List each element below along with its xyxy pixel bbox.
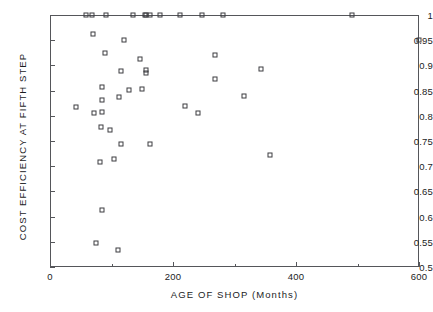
data-point-marker bbox=[182, 103, 187, 108]
data-point-marker bbox=[94, 241, 99, 246]
data-point-marker bbox=[99, 110, 104, 115]
data-point-marker bbox=[89, 13, 94, 18]
y-axis-tick-label: 0.65 bbox=[389, 186, 433, 197]
data-point-marker bbox=[103, 13, 108, 18]
y-axis-tick bbox=[50, 267, 55, 268]
y-axis-tick bbox=[50, 65, 55, 66]
x-axis-title: AGE OF SHOP (Months) bbox=[50, 289, 419, 300]
x-axis-tick-label: 600 bbox=[411, 271, 427, 282]
data-point-marker bbox=[74, 105, 79, 110]
data-point-marker bbox=[83, 13, 88, 18]
y-axis-tick-label: 0.7 bbox=[389, 161, 433, 172]
data-point-marker bbox=[108, 128, 113, 133]
y-axis-tick bbox=[50, 15, 55, 16]
data-point-marker bbox=[139, 86, 144, 91]
y-axis-tick-label: 0.95 bbox=[389, 35, 433, 46]
data-point-marker bbox=[119, 69, 124, 74]
data-point-marker bbox=[148, 13, 153, 18]
data-point-marker bbox=[148, 142, 153, 147]
data-point-marker bbox=[131, 13, 136, 18]
y-axis-tick bbox=[50, 40, 55, 41]
y-axis-tick-label: 0.8 bbox=[389, 110, 433, 121]
scatter-plot-figure: 0.50.550.60.650.70.750.80.850.90.951 020… bbox=[0, 0, 433, 312]
y-axis-tick bbox=[50, 166, 55, 167]
x-axis-minor-tick bbox=[235, 264, 236, 267]
data-point-marker bbox=[258, 67, 263, 72]
y-axis-tick-label: 1 bbox=[389, 10, 433, 21]
y-axis-tick bbox=[50, 242, 55, 243]
data-point-marker bbox=[100, 207, 105, 212]
x-axis-tick bbox=[50, 262, 51, 267]
data-point-marker bbox=[268, 153, 273, 158]
data-point-marker bbox=[137, 56, 142, 61]
data-point-marker bbox=[195, 111, 200, 116]
y-axis-tick bbox=[50, 217, 55, 218]
data-point-marker bbox=[349, 13, 354, 18]
data-point-marker bbox=[158, 13, 163, 18]
y-axis-tick bbox=[50, 141, 55, 142]
x-axis-tick-label: 0 bbox=[47, 271, 52, 282]
data-point-marker bbox=[92, 110, 97, 115]
y-axis-tick-label: 0.9 bbox=[389, 60, 433, 71]
data-point-marker bbox=[117, 95, 122, 100]
y-axis-tick-label: 0.55 bbox=[389, 236, 433, 247]
y-axis-tick-label: 0.75 bbox=[389, 136, 433, 147]
data-point-marker bbox=[220, 13, 225, 18]
data-point-marker bbox=[199, 13, 204, 18]
y-axis-tick bbox=[50, 91, 55, 92]
y-axis-tick-label: 0.85 bbox=[389, 85, 433, 96]
x-axis-tick bbox=[419, 262, 420, 267]
y-axis-title: COST EFFICIENCY AT FIFTH STEP bbox=[17, 22, 28, 272]
x-axis-tick bbox=[173, 262, 174, 267]
data-point-marker bbox=[98, 160, 103, 165]
y-axis-tick-label: 0.6 bbox=[389, 211, 433, 222]
data-point-marker bbox=[111, 156, 116, 161]
data-point-marker bbox=[126, 87, 131, 92]
data-point-marker bbox=[241, 93, 246, 98]
data-point-marker bbox=[143, 71, 148, 76]
data-point-marker bbox=[417, 37, 422, 42]
x-axis-minor-tick bbox=[112, 264, 113, 267]
data-point-marker bbox=[119, 142, 124, 147]
data-point-marker bbox=[99, 98, 104, 103]
data-point-marker bbox=[177, 13, 182, 18]
data-point-marker bbox=[99, 124, 104, 129]
y-axis-tick bbox=[50, 116, 55, 117]
y-axis-tick bbox=[50, 191, 55, 192]
data-point-marker bbox=[100, 84, 105, 89]
data-point-marker bbox=[103, 51, 108, 56]
data-point-marker bbox=[115, 248, 120, 253]
data-point-marker bbox=[212, 52, 217, 57]
x-axis-tick bbox=[296, 262, 297, 267]
data-point-marker bbox=[213, 76, 218, 81]
data-point-marker bbox=[91, 31, 96, 36]
data-point-marker bbox=[122, 38, 127, 43]
x-axis-tick-label: 200 bbox=[165, 271, 181, 282]
x-axis-minor-tick bbox=[358, 264, 359, 267]
x-axis-tick-label: 400 bbox=[288, 271, 304, 282]
